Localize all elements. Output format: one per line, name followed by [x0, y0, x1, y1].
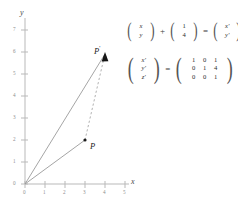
paren-close-5: ): [227, 52, 233, 85]
hvec-out-x: x': [140, 56, 148, 64]
offset-dy: 4: [180, 31, 188, 39]
y-tick-label-7: 7: [13, 27, 16, 32]
m10: 0: [188, 64, 199, 72]
x-tick-label-3: 3: [83, 190, 86, 195]
vec-out-y: y': [223, 31, 231, 39]
equals-operator-2: =: [164, 64, 171, 74]
matrix-row-2: 0 0 1: [188, 73, 221, 81]
matrix-row-0: 1 0 1: [188, 56, 221, 64]
segment-origin-to-p: [25, 140, 85, 184]
m12: 4: [210, 64, 221, 72]
y-tick-label-1: 1: [13, 159, 16, 164]
x-tick-label-1: 1: [43, 190, 46, 195]
point-label-p: P: [90, 142, 95, 151]
y-tick-label-4: 4: [13, 93, 16, 98]
point-label-p-prime: P': [94, 45, 100, 55]
m02: 1: [210, 56, 221, 64]
paren-open-5: (: [176, 52, 182, 85]
m20: 0: [188, 73, 199, 81]
paren-close-1: ): [150, 18, 154, 43]
point-label-p-text: P: [90, 141, 95, 151]
vec-out-x: x': [223, 22, 231, 30]
y-tick-label-0: 0: [13, 181, 16, 186]
vector-out-3d: x' y' z': [139, 56, 149, 81]
y-tick-label-3: 3: [13, 115, 16, 120]
equation-block: ( x y ) + ( 1 4 ) = ( x' y' ) (: [126, 18, 236, 85]
prime-mark: ': [99, 45, 100, 51]
paren-close-2: ): [193, 18, 197, 43]
paren-open-3: (: [213, 18, 217, 43]
hvec-out-z: z': [140, 73, 148, 81]
hvec-out-y: y': [140, 64, 148, 72]
x-tick-label-2: 2: [63, 190, 66, 195]
paren-close-3: ): [236, 18, 238, 43]
paren-close-4: ): [154, 52, 160, 85]
paren-open-4: (: [128, 52, 134, 85]
paren-open-2: (: [170, 18, 174, 43]
paren-open-1: (: [127, 18, 131, 43]
equation-homogeneous: ( x' y' z' ) = ( 1 0 1 0 1 4: [126, 52, 236, 85]
offset-dx: 1: [180, 22, 188, 30]
y-tick-label-5: 5: [13, 71, 16, 76]
m11: 1: [199, 64, 210, 72]
y-tick-label-2: 2: [13, 137, 16, 142]
equals-operator-1: =: [202, 26, 209, 36]
y-tick-label-6: 6: [13, 49, 16, 54]
vector-in-2d: x y: [136, 22, 146, 39]
offset-vector: 1 4: [179, 22, 189, 39]
segment-origin-to-p-prime: [25, 54, 105, 184]
matrix-row-1: 0 1 4: [188, 64, 221, 72]
point-p: [83, 138, 86, 141]
transform-matrix: 1 0 1 0 1 4 0 0 1: [187, 56, 222, 81]
x-axis-label: x: [131, 178, 135, 186]
x-tick-label-5: 5: [123, 190, 126, 195]
point-p-prime: [104, 56, 107, 59]
m21: 0: [199, 73, 210, 81]
vector-out-2d: x' y': [222, 22, 232, 39]
vec-in-x: x: [137, 22, 145, 30]
vec-in-y: y: [137, 31, 145, 39]
y-axis-label: y: [20, 9, 24, 17]
equation-translation: ( x y ) + ( 1 4 ) = ( x' y' ): [126, 18, 236, 43]
plus-operator: +: [159, 26, 166, 36]
m00: 1: [188, 56, 199, 64]
translation-figure: 0 1 2 3 4 5 6 7 0 1 2 3 4 5 y x P P' ( x…: [0, 0, 238, 211]
x-tick-label-0: 0: [23, 190, 26, 195]
x-tick-label-4: 4: [103, 190, 106, 195]
m01: 0: [199, 56, 210, 64]
m22: 1: [210, 73, 221, 81]
